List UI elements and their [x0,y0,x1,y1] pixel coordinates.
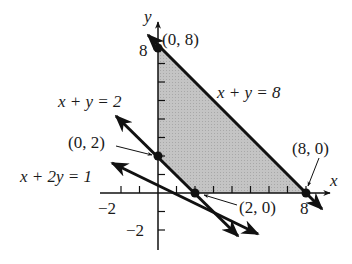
y-axis-label: y [142,7,152,26]
x-tick-label-neg2: −2 [98,199,116,218]
point-label-0-2: (0, 2) [68,133,105,152]
point-label-2-0: (2, 0) [239,198,276,217]
vertex-2-0 [191,189,200,198]
y-tick-label-neg2: −2 [126,221,144,240]
line-label-x-plus-y-8: x + y = 8 [216,83,281,102]
line-label-x-plus-y-2: x + y = 2 [57,92,122,111]
point-label-0-8: (0, 8) [162,30,199,49]
x-axis-label: x [329,171,338,190]
vertex-0-2 [154,152,163,161]
feasible-region-diagram: y x 8 8 −2 −2 (0, 8) (0, 2) (2, 0) (8, 0… [0,0,352,264]
line-label-x-plus-2y: x + 2y = 1 [19,167,92,186]
x-tick-label-8: 8 [300,199,309,218]
pointer-8-0 [308,158,319,186]
pointer-2-0 [204,195,237,205]
vertex-8-0 [302,189,311,198]
point-label-8-0: (8, 0) [292,139,329,158]
y-tick-label-8: 8 [139,41,148,60]
